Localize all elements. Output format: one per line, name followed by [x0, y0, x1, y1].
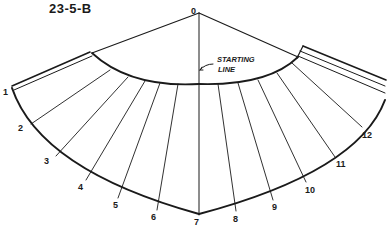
left-seam-inner [14, 56, 92, 90]
label-10: 10 [305, 185, 315, 195]
right-seam-mid [300, 51, 385, 86]
label-3: 3 [44, 156, 49, 166]
label-5: 5 [113, 200, 118, 210]
left-seam-outer [12, 52, 90, 86]
label-6: 6 [151, 212, 156, 222]
label-7: 7 [194, 217, 199, 227]
inner-arc [92, 53, 298, 84]
apex-line-left [92, 13, 199, 53]
label-9: 9 [272, 202, 277, 212]
annotation-line-2: LINE [218, 65, 236, 74]
pattern-development-diagram: 0 STARTING LINE 1 2 3 4 5 6 7 8 9 10 11 … [0, 0, 387, 228]
label-1: 1 [3, 87, 8, 97]
label-8: 8 [233, 214, 238, 224]
apex-label: 0 [191, 6, 196, 16]
annotation-line-1: STARTING [217, 55, 255, 64]
label-12: 12 [362, 130, 372, 140]
label-2: 2 [18, 123, 23, 133]
label-11: 11 [336, 159, 346, 169]
apex-line-right [199, 13, 298, 57]
arrow-icon [200, 64, 213, 70]
label-4: 4 [78, 182, 83, 192]
